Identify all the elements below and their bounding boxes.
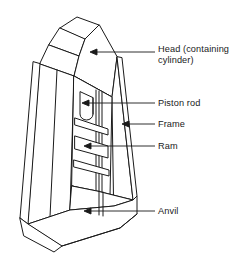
leader-frame <box>122 121 155 127</box>
callout-label-piston-rod: Piston rod <box>158 98 200 109</box>
press-diagram-figure: Head (containing cylinder) Piston rod Fr… <box>0 0 242 268</box>
callout-label-ram: Ram <box>158 141 178 152</box>
cavity-back-wall <box>72 76 112 196</box>
press-line-drawing <box>0 0 242 268</box>
callout-label-frame: Frame <box>158 119 185 130</box>
callout-label-anvil: Anvil <box>158 206 178 217</box>
callout-label-head: Head (containing cylinder) <box>158 44 229 66</box>
